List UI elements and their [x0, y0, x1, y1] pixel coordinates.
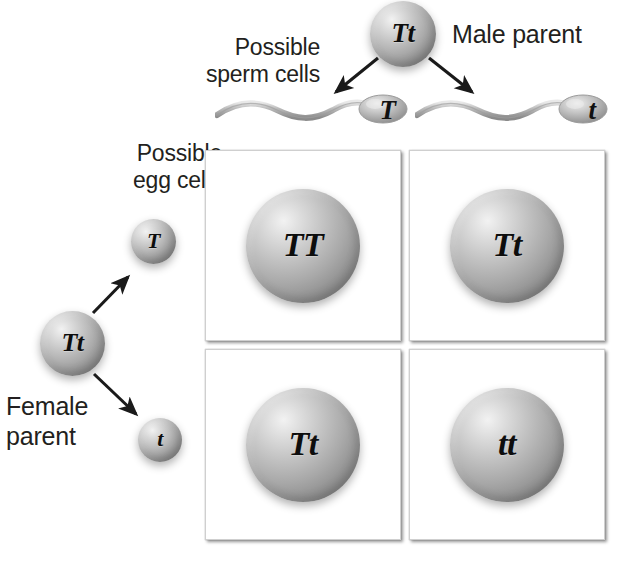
- possible-egg-cells-label: Possible egg cells: [60, 140, 222, 194]
- punnett-square-grid: TT Tt Tt tt: [205, 150, 609, 544]
- punnett-square-diagram: Male parent Possible sperm cells Tt: [0, 0, 625, 575]
- egg-cell-T-allele: T: [147, 228, 160, 254]
- female-parent-label: Female parent: [6, 392, 146, 451]
- sperm-t-shape: [415, 88, 615, 134]
- punnett-cell-tt-genotype: tt: [498, 425, 516, 463]
- male-parent-cell: Tt: [370, 1, 436, 67]
- arrow-female-to-egg-T: [93, 277, 128, 313]
- punnett-cell-Tt-bottom-left[interactable]: Tt: [205, 349, 401, 540]
- sperm-cell-T-allele: T: [380, 95, 397, 126]
- punnett-cell-TT[interactable]: TT: [205, 150, 401, 341]
- female-parent-genotype: Tt: [61, 328, 83, 358]
- offspring-cell-TT: TT: [246, 189, 360, 303]
- offspring-cell-tt: tt: [450, 388, 564, 502]
- sperm-cell-T: T: [215, 88, 415, 134]
- arrow-male-to-sperm-T: [336, 58, 378, 92]
- arrow-male-to-sperm-t: [429, 58, 472, 92]
- punnett-cell-tt[interactable]: tt: [409, 349, 605, 540]
- sperm-cell-t: t: [415, 88, 615, 134]
- male-parent-genotype: Tt: [392, 18, 415, 49]
- offspring-cell-Tt-top-right: Tt: [450, 189, 564, 303]
- possible-sperm-cells-label: Possible sperm cells: [140, 34, 320, 88]
- female-parent-cell: Tt: [40, 311, 105, 376]
- egg-cell-T: T: [131, 219, 176, 264]
- punnett-cell-Tt-top-right-genotype: Tt: [492, 226, 521, 264]
- offspring-cell-Tt-bottom-left: Tt: [246, 388, 360, 502]
- egg-cell-t-allele: t: [157, 426, 163, 452]
- egg-cell-t: t: [138, 418, 182, 462]
- sperm-cell-t-allele: t: [588, 95, 596, 126]
- punnett-cell-Tt-top-right[interactable]: Tt: [409, 150, 605, 341]
- punnett-cell-TT-genotype: TT: [283, 226, 324, 264]
- male-parent-label: Male parent: [452, 20, 582, 50]
- punnett-cell-Tt-bottom-left-genotype: Tt: [288, 425, 317, 463]
